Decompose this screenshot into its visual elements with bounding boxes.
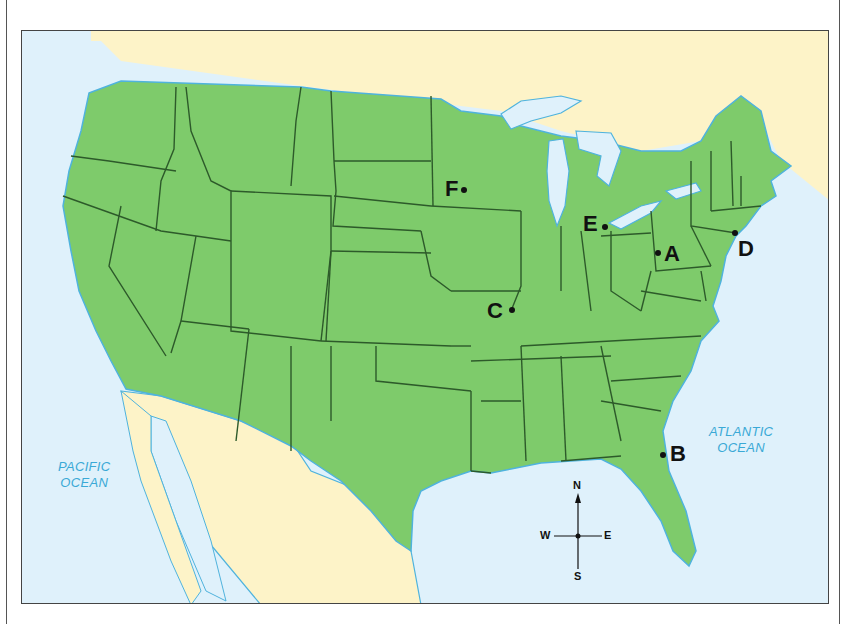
compass-north: N (573, 479, 581, 491)
compass-west: W (540, 529, 550, 541)
point-f-dot (461, 187, 467, 193)
us-map (22, 31, 829, 604)
point-b-label: B (670, 443, 686, 465)
compass-south: S (574, 570, 581, 582)
point-e-dot (602, 224, 608, 230)
point-a-label: A (664, 243, 680, 265)
point-f-label: F (445, 178, 458, 200)
point-d-label: D (738, 238, 754, 260)
point-b-dot (660, 452, 666, 458)
atlantic-ocean-label: ATLANTIC OCEAN (709, 424, 773, 456)
point-c-label: C (487, 300, 503, 322)
point-a-dot (655, 250, 661, 256)
compass-east: E (604, 529, 611, 541)
atlantic-line1: ATLANTIC (709, 424, 773, 440)
pacific-line2: OCEAN (58, 475, 110, 491)
canada-land-north (91, 31, 829, 41)
compass-rose: N S E W (538, 479, 618, 583)
atlantic-line2: OCEAN (709, 440, 773, 456)
map-frame: PACIFIC OCEAN ATLANTIC OCEAN A B C D E F… (21, 30, 829, 604)
point-c-dot (509, 307, 515, 313)
pacific-line1: PACIFIC (58, 459, 110, 475)
pacific-ocean-label: PACIFIC OCEAN (58, 459, 110, 491)
point-e-label: E (583, 213, 598, 235)
